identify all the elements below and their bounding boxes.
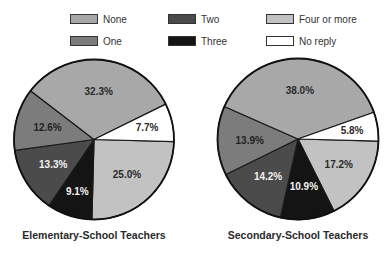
slice-label: 14.2% [254, 171, 282, 182]
pie-charts: 25.0%9.1%13.3%12.6%32.3%7.7% 17.2%10.9%1… [0, 0, 390, 255]
slice-label: 12.6% [33, 122, 61, 133]
pie-title-secondary: Secondary-School Teachers [228, 229, 368, 241]
slice-label: 38.0% [286, 85, 314, 96]
slice-label: 25.0% [113, 169, 141, 180]
slice-label: 17.2% [325, 159, 353, 170]
slice-label: 13.9% [236, 135, 264, 146]
pie-secondary-school: 17.2%10.9%14.2%13.9%38.0%5.8% [217, 59, 378, 220]
slice-label: 5.8% [341, 125, 364, 136]
slice-label: 10.9% [290, 181, 318, 192]
slice-label: 13.3% [39, 159, 67, 170]
slice-label: 9.1% [66, 186, 89, 197]
slice-label: 7.7% [136, 122, 159, 133]
pie-elementary-school: 25.0%9.1%13.3%12.6%32.3%7.7% [14, 59, 174, 219]
pie-title-elementary: Elementary-School Teachers [22, 229, 165, 241]
slice-label: 32.3% [85, 86, 113, 97]
